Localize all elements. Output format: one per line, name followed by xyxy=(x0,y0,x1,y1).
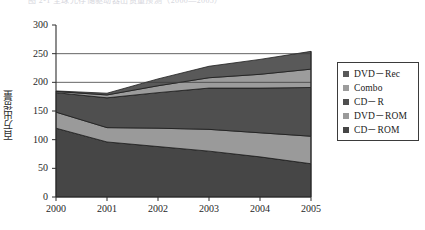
x-tick-label: 2004 xyxy=(243,203,277,214)
chart-page: 图 2-1 全球光存储驱动器出货量预测（2000—2005） 百万出货量 050… xyxy=(0,0,425,230)
legend-label: DVD－ROM xyxy=(354,111,407,121)
y-tick-label: 200 xyxy=(22,76,48,87)
chart-legend: DVD－RecComboCD－RDVD－ROMCD－ROM xyxy=(337,62,419,141)
y-tick-label: 300 xyxy=(22,19,48,30)
legend-label: Combo xyxy=(354,83,382,93)
legend-swatch-icon xyxy=(343,71,349,77)
legend-item[interactable]: DVD－ROM xyxy=(343,109,415,123)
legend-label: DVD－Rec xyxy=(354,69,400,79)
y-tick-label: 0 xyxy=(22,191,48,202)
x-tick-label: 2000 xyxy=(39,203,73,214)
legend-label: CD－R xyxy=(354,97,384,107)
chart-canvas: 百万出货量 050100150200250300 200020012002200… xyxy=(0,0,425,230)
legend-item[interactable]: CD－ROM xyxy=(343,123,415,137)
x-tick-label: 2002 xyxy=(141,203,175,214)
legend-item[interactable]: DVD－Rec xyxy=(343,67,415,81)
legend-label: CD－ROM xyxy=(354,125,399,135)
y-tick-label: 250 xyxy=(22,48,48,59)
x-tick-label: 2001 xyxy=(90,203,124,214)
y-tick-label: 50 xyxy=(22,162,48,173)
legend-swatch-icon xyxy=(343,127,349,133)
y-axis-label: 百万出货量 xyxy=(1,62,17,168)
x-tick-label: 2005 xyxy=(294,203,328,214)
y-tick-label: 150 xyxy=(22,105,48,116)
x-tick-label: 2003 xyxy=(192,203,226,214)
legend-swatch-icon xyxy=(343,99,349,105)
legend-item[interactable]: CD－R xyxy=(343,95,415,109)
legend-swatch-icon xyxy=(343,113,349,119)
legend-swatch-icon xyxy=(343,85,349,91)
legend-item[interactable]: Combo xyxy=(343,81,415,95)
y-tick-label: 100 xyxy=(22,134,48,145)
